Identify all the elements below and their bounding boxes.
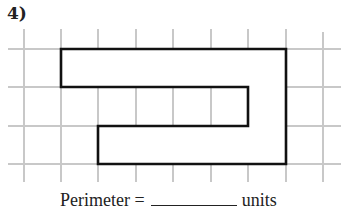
grid-figure xyxy=(0,0,356,212)
perimeter-label: Perimeter = xyxy=(60,190,145,210)
perimeter-answer-line: Perimeter =units xyxy=(60,190,277,211)
units-label: units xyxy=(242,190,277,210)
answer-blank[interactable] xyxy=(151,191,237,206)
